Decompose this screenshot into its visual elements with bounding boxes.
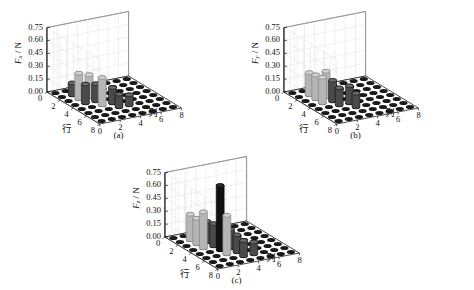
floor-marker xyxy=(105,107,113,111)
row-axis-name: 行 xyxy=(62,121,72,135)
row-tick-label: 2 xyxy=(51,101,55,111)
floor-marker xyxy=(84,111,92,115)
col-tick-label: 0 xyxy=(216,271,220,281)
row-tick-label: 2 xyxy=(169,246,173,256)
floor-marker xyxy=(113,79,121,83)
floor-marker xyxy=(335,119,343,123)
row-tick-label: 8 xyxy=(91,125,95,135)
floor-marker xyxy=(138,111,146,115)
row-tick-label: 8 xyxy=(328,125,332,135)
col-tick-label: 8 xyxy=(297,255,301,265)
floor-marker xyxy=(146,99,154,103)
floor-marker xyxy=(350,79,358,83)
col-tick-label: 0 xyxy=(98,126,102,136)
floor-marker xyxy=(383,99,391,103)
z-tick-label: 0.30 xyxy=(135,205,161,215)
floor-marker xyxy=(213,254,221,258)
floor-marker xyxy=(359,109,367,113)
row-tick-label: 6 xyxy=(315,117,319,127)
floor-marker xyxy=(162,101,170,105)
z-tick-label: 0.30 xyxy=(254,60,280,70)
floor-marker xyxy=(256,256,264,260)
z-tick-label: 0.75 xyxy=(135,167,161,177)
floor-marker xyxy=(372,101,380,105)
floor-marker xyxy=(51,91,59,95)
floor-marker xyxy=(219,258,227,262)
floor-marker xyxy=(315,107,323,111)
floor-marker xyxy=(356,83,364,87)
col-axis-name: 列 xyxy=(148,105,158,119)
floor-marker xyxy=(274,242,282,246)
floor-marker xyxy=(342,107,350,111)
floor-marker xyxy=(169,105,177,109)
floor-marker xyxy=(78,107,86,111)
floor-marker xyxy=(95,109,103,113)
col-tick-label: 2 xyxy=(118,122,122,132)
floor-marker xyxy=(362,103,370,107)
floor-marker xyxy=(338,113,346,117)
row-axis-name: 行 xyxy=(180,266,190,280)
floor-marker xyxy=(132,91,140,95)
row-tick-label: 4 xyxy=(182,254,186,264)
floor-marker xyxy=(135,101,143,105)
floor-marker xyxy=(406,105,414,109)
col-tick-label: 6 xyxy=(159,114,163,124)
floor-marker xyxy=(359,93,367,97)
bar-c-r7-c5 xyxy=(250,240,258,256)
z-tick-label: 0.75 xyxy=(254,22,280,32)
col-axis-name: 列 xyxy=(266,250,276,264)
z-tick-label: 0.15 xyxy=(17,73,43,83)
col-tick-label: 6 xyxy=(277,259,281,269)
floor-marker xyxy=(139,95,147,99)
floor-marker xyxy=(119,83,127,87)
row-tick-label: 0 xyxy=(156,238,160,248)
floor-marker xyxy=(98,119,106,123)
bar-b-r5-c3 xyxy=(335,86,343,107)
floor-marker xyxy=(236,260,244,264)
floor-marker xyxy=(189,248,197,252)
floor-marker xyxy=(386,93,394,97)
floor-marker xyxy=(302,99,310,103)
col-axis-name: 列 xyxy=(385,105,395,119)
floor-marker xyxy=(156,97,164,101)
floor-marker xyxy=(295,95,303,99)
floor-marker xyxy=(58,95,66,99)
floor-marker xyxy=(332,109,340,113)
floor-marker xyxy=(288,91,296,95)
col-tick-label: 4 xyxy=(139,118,143,128)
floor-marker xyxy=(229,256,237,260)
floor-marker xyxy=(250,236,258,240)
floor-marker xyxy=(216,264,224,268)
row-tick-label: 4 xyxy=(301,109,305,119)
floor-marker xyxy=(257,240,265,244)
floor-marker xyxy=(88,105,96,109)
bar-a-r5-c3 xyxy=(98,76,106,107)
floor-marker xyxy=(244,232,252,236)
z-tick-label: 0.15 xyxy=(135,218,161,228)
col-tick-label: 2 xyxy=(236,267,240,277)
z-tick-label: 0.45 xyxy=(254,47,280,57)
floor-marker xyxy=(108,117,116,121)
floor-marker xyxy=(206,250,214,254)
floor-marker xyxy=(122,109,130,113)
floor-marker xyxy=(123,77,131,81)
floor-marker xyxy=(360,77,368,81)
z-tick-label: 0.15 xyxy=(254,73,280,83)
panel-a: Fx / N (a) 0.000.150.300.450.600.7502468… xyxy=(0,0,237,145)
floor-marker xyxy=(169,236,177,240)
floor-marker xyxy=(261,234,269,238)
bar-c-r7-c4 xyxy=(240,239,248,258)
row-tick-label: 2 xyxy=(288,101,292,111)
floor-marker xyxy=(365,113,373,117)
floor-marker xyxy=(202,256,210,260)
floor-marker xyxy=(128,113,136,117)
col-tick-label: 4 xyxy=(257,263,261,273)
floor-marker xyxy=(280,246,288,250)
col-tick-label: 8 xyxy=(179,110,183,120)
floor-marker xyxy=(264,244,272,248)
floor-marker xyxy=(375,111,383,115)
row-tick-label: 0 xyxy=(275,93,279,103)
col-tick-label: 0 xyxy=(335,126,339,136)
bar-a-r4-c2 xyxy=(81,82,89,105)
bar-b-r6-c4 xyxy=(352,91,360,109)
